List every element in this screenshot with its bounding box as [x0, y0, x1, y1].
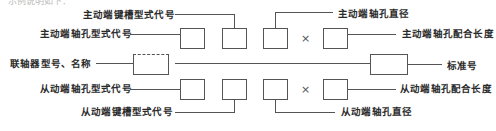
box-driven-bore-type	[180, 79, 205, 100]
line-driven-diameter-v	[275, 100, 276, 112]
box-drive-keyway	[222, 28, 247, 49]
line-drive-diameter-v	[275, 12, 276, 28]
label-drive-bore-type: 主动端轴孔型式代号	[40, 28, 132, 40]
line-standard-no	[408, 64, 442, 65]
label-drive-bore-diameter: 主动端轴孔直径	[338, 8, 409, 20]
box-driven-bore-length	[323, 79, 348, 100]
box-drive-bore-diameter	[263, 28, 288, 49]
line-driven-keyway-v	[234, 100, 235, 112]
line-coupling-left	[96, 63, 133, 64]
label-drive-bore-length: 主动端轴孔配合长度	[402, 28, 494, 40]
label-driven-keyway: 从动端键槽型式代号	[81, 106, 173, 118]
line-drive-keyway-h	[175, 14, 235, 15]
times-symbol-bottom: ×	[301, 84, 310, 96]
box-drive-bore-type	[180, 28, 205, 49]
line-driven-keyway-h	[175, 112, 235, 113]
label-standard-no: 标准号	[447, 60, 478, 72]
line-drive-diameter-h	[275, 12, 333, 13]
line-drive-length	[348, 34, 396, 35]
box-drive-bore-length	[323, 28, 348, 49]
box-driven-keyway	[222, 79, 247, 100]
label-driven-bore-diameter: 从动端轴孔直径	[341, 106, 412, 118]
box-coupling-model	[133, 54, 169, 75]
line-driven-length	[348, 89, 396, 90]
label-drive-keyway: 主动端键槽型式代号	[83, 9, 175, 21]
line-drive-bore-type	[130, 34, 180, 35]
label-driven-bore-length: 从动端轴孔配合长度	[400, 83, 492, 95]
box-standard-no	[370, 54, 408, 75]
label-driven-bore-type: 从动端轴孔型式代号	[40, 83, 132, 95]
cut-off-header-text: 示例说明如下：	[8, 0, 71, 7]
label-coupling-model: 联轴器型号、名称	[10, 58, 92, 70]
box-driven-bore-diameter	[263, 79, 288, 100]
times-symbol-top: ×	[301, 33, 310, 45]
line-drive-keyway-v	[234, 14, 235, 28]
line-coupling-right	[175, 63, 370, 64]
line-driven-bore-type	[130, 89, 180, 90]
line-driven-diameter-h	[275, 112, 335, 113]
